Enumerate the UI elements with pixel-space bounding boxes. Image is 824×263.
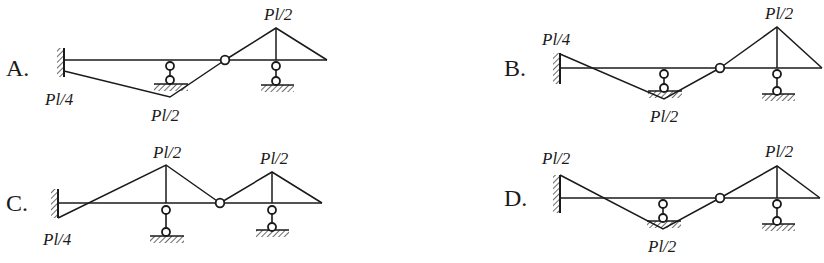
moment-label-mid: Pl/2 (647, 237, 677, 256)
fixed-support-icon (553, 175, 560, 213)
roller-support-icon (150, 206, 184, 243)
option-c[interactable]: C. Pl/4 Pl/2 Pl/2 (6, 143, 322, 249)
roller-support-icon (256, 206, 289, 237)
hinge-icon (716, 194, 725, 203)
roller-support-icon (762, 70, 795, 101)
roller-support-icon (762, 200, 795, 231)
option-c-label: C. (6, 190, 28, 216)
moment-label-mid: Pl/2 (150, 106, 180, 125)
fixed-support-icon (553, 53, 560, 84)
roller-support-icon (261, 62, 294, 92)
moment-label-fixed: Pl/4 (44, 90, 74, 109)
roller-support-icon (648, 70, 682, 98)
roller-support-icon (154, 62, 188, 91)
hinge-icon (221, 56, 230, 65)
hinge-icon (216, 199, 225, 208)
moment-label-right: Pl/2 (764, 4, 794, 23)
moment-label-right: Pl/2 (263, 5, 293, 24)
moment-label-fixed: Pl/4 (42, 230, 72, 249)
moment-curve-right (220, 172, 322, 203)
roller-support-icon (647, 200, 681, 228)
moment-curve-left (58, 165, 220, 218)
moment-curve-left (64, 60, 225, 97)
moment-curve-left (560, 175, 720, 229)
fixed-support-icon (51, 189, 58, 218)
moment-label-fixed: Pl/4 (541, 30, 571, 49)
moment-curve-right (720, 166, 820, 198)
moment-curve-right (720, 27, 822, 68)
option-b[interactable]: B. Pl/4 Pl/2 Pl/2 (504, 4, 822, 126)
moment-label-right: Pl/2 (764, 142, 794, 161)
option-d[interactable]: D. Pl/2 Pl/2 Pl/2 (504, 142, 820, 256)
moment-label-mid: Pl/2 (649, 107, 679, 126)
option-b-label: B. (504, 55, 526, 81)
option-a[interactable]: A. Pl/4 Pl/2 Pl/ (6, 5, 327, 125)
bending-moment-diagrams: A. Pl/4 Pl/2 Pl/ (0, 0, 824, 263)
option-d-label: D. (504, 185, 527, 211)
moment-label-right: Pl/2 (259, 149, 289, 168)
moment-label-mid: Pl/2 (152, 143, 182, 162)
moment-curve-left (560, 54, 720, 99)
option-a-label: A. (6, 55, 29, 81)
hinge-icon (716, 64, 725, 73)
fixed-support-icon (57, 48, 64, 77)
moment-label-fixed: Pl/2 (541, 149, 571, 168)
